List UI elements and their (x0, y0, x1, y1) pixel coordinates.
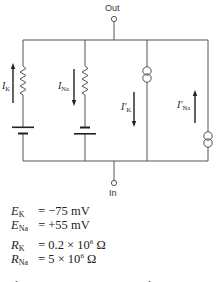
equation-e-k: EK = −75 mV (11, 205, 90, 219)
equation-r-k: RK = 0.2 × 106 Ω (11, 239, 106, 253)
battery-k-icon (12, 127, 34, 135)
current-label-ik-prime: I′K (121, 102, 131, 114)
arrow-up-icon (193, 90, 197, 123)
resistor-k-icon (20, 66, 26, 95)
resistor-na-icon (82, 66, 88, 95)
in-label: In (109, 189, 117, 198)
current-source-na-icon (204, 132, 212, 147)
current-source-k-icon (143, 67, 151, 82)
battery-na-icon (74, 127, 96, 135)
current-label-ina-prime: I′Na (177, 100, 190, 112)
in-terminal-icon (111, 180, 116, 185)
arrow-down-icon (132, 92, 136, 127)
equation-r-na: RNa = 5 × 106 Ω (11, 253, 96, 267)
circuit-diagram: Out In IK INa I′K I′Na EK = −75 mV ENa =… (0, 0, 220, 282)
equation-e-na: ENa = +55 mV (11, 219, 90, 233)
out-label: Out (105, 4, 120, 13)
arrow-up-icon (11, 63, 15, 103)
arrow-down-icon (72, 69, 76, 106)
current-label-ina: INa (58, 81, 69, 93)
out-terminal-icon (111, 16, 116, 21)
current-label-ik: IK (2, 81, 10, 93)
